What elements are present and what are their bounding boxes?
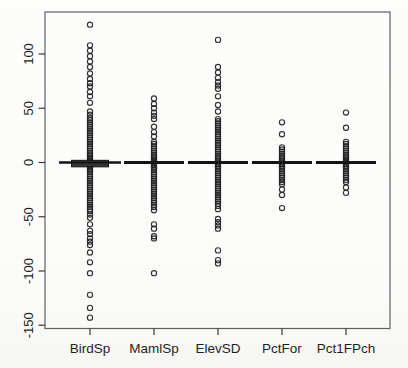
data-point bbox=[215, 102, 220, 107]
data-point bbox=[279, 187, 284, 192]
data-point bbox=[87, 84, 92, 89]
data-point bbox=[215, 109, 220, 114]
data-point bbox=[87, 43, 92, 48]
data-point bbox=[151, 116, 156, 121]
data-point bbox=[87, 305, 92, 310]
data-point bbox=[215, 226, 220, 231]
y-axis-tick-label: 0 bbox=[21, 159, 36, 166]
data-point bbox=[87, 242, 92, 247]
data-point bbox=[343, 125, 348, 130]
data-point bbox=[87, 271, 92, 276]
x-axis-category-label: Pct1FPch bbox=[317, 341, 376, 356]
data-point bbox=[343, 185, 348, 190]
data-point bbox=[343, 110, 348, 115]
data-point bbox=[151, 208, 156, 213]
data-point bbox=[87, 292, 92, 297]
data-point bbox=[87, 71, 92, 76]
data-point bbox=[215, 248, 220, 253]
data-point bbox=[215, 37, 220, 42]
x-axis-category-label: PctFor bbox=[262, 341, 302, 356]
data-point bbox=[87, 22, 92, 27]
figure-root: 100500-50-100-150BirdSpMamlSpElevSDPctFo… bbox=[0, 0, 408, 368]
data-point bbox=[87, 250, 92, 255]
data-point bbox=[215, 64, 220, 69]
data-point bbox=[87, 215, 92, 220]
data-point bbox=[279, 192, 284, 197]
data-point bbox=[215, 70, 220, 75]
data-point bbox=[151, 124, 156, 129]
y-axis-tick-label: -150 bbox=[21, 312, 36, 338]
data-point bbox=[343, 190, 348, 195]
data-point bbox=[87, 48, 92, 53]
data-point bbox=[87, 100, 92, 105]
data-point bbox=[87, 64, 92, 69]
y-axis-tick-label: 50 bbox=[21, 101, 36, 115]
data-point bbox=[215, 86, 220, 91]
data-point bbox=[215, 94, 220, 99]
data-point bbox=[87, 59, 92, 64]
x-axis-category-label: ElevSD bbox=[195, 341, 240, 356]
data-point bbox=[87, 260, 92, 265]
data-point bbox=[279, 205, 284, 210]
data-point bbox=[151, 96, 156, 101]
data-point bbox=[87, 315, 92, 320]
data-point bbox=[215, 207, 220, 212]
y-axis-tick-label: 100 bbox=[21, 43, 36, 65]
x-axis-category-label: MamlSp bbox=[129, 341, 179, 356]
data-point bbox=[87, 222, 92, 227]
data-point bbox=[215, 261, 220, 266]
data-point bbox=[279, 120, 284, 125]
data-point bbox=[279, 132, 284, 137]
x-axis-category-label: BirdSp bbox=[70, 341, 111, 356]
stripchart-plot: 100500-50-100-150BirdSpMamlSpElevSDPctFo… bbox=[0, 0, 408, 368]
data-point bbox=[151, 271, 156, 276]
y-axis-tick-label: -50 bbox=[21, 207, 36, 226]
y-axis-tick-label: -100 bbox=[21, 258, 36, 284]
data-point bbox=[87, 54, 92, 59]
